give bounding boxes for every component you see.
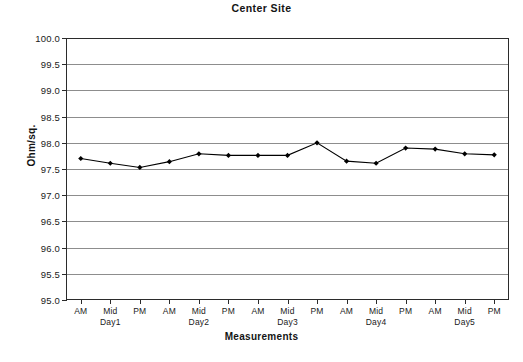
data-point-marker — [492, 152, 497, 157]
data-point-marker — [167, 159, 172, 164]
data-point-marker — [462, 151, 467, 156]
figure-container: Center Site 100.099.599.098.598.097.597.… — [0, 0, 523, 362]
series-layer — [0, 0, 523, 362]
data-point-marker — [137, 165, 142, 170]
data-point-marker — [314, 140, 319, 145]
data-point-marker — [344, 159, 349, 164]
figure-caption — [8, 355, 388, 362]
data-point-marker — [108, 161, 113, 166]
data-point-marker — [285, 153, 290, 158]
data-point-marker — [226, 153, 231, 158]
data-point-marker — [255, 153, 260, 158]
data-point-marker — [403, 145, 408, 150]
data-point-marker — [433, 146, 438, 151]
data-point-marker — [374, 161, 379, 166]
data-point-marker — [196, 151, 201, 156]
data-point-marker — [78, 156, 83, 161]
